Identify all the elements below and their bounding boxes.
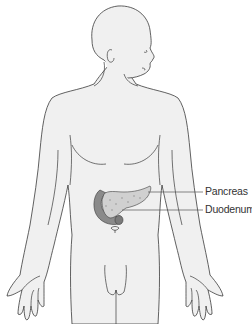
duodenum-label: Duodenum (205, 203, 252, 215)
anatomy-figure (0, 0, 252, 324)
head-outline (92, 6, 154, 78)
pancreas-label: Pancreas (205, 185, 248, 197)
